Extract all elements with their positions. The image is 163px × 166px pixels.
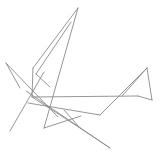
figure-canvas	[0, 0, 163, 166]
line-art-figure	[0, 0, 163, 166]
canvas-background	[0, 0, 163, 166]
